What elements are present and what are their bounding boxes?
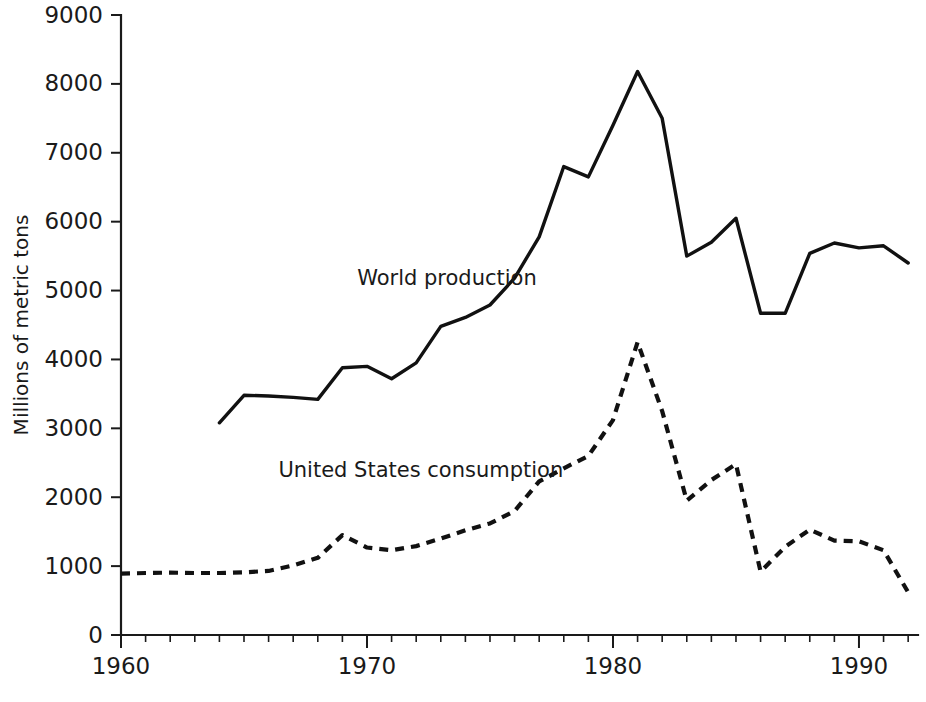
- y-axis-tick-label: 5000: [44, 277, 103, 303]
- y-axis-tick-label: 2000: [44, 484, 103, 510]
- y-axis-tick-label: 9000: [44, 2, 103, 28]
- x-axis-tick-label: 1990: [830, 653, 889, 679]
- y-axis-tick-label: 6000: [44, 208, 103, 234]
- chart-figure: 0100020003000400050006000700080009000 19…: [0, 0, 926, 702]
- y-axis-title: Millions of metric tons: [9, 215, 33, 436]
- line-chart: 0100020003000400050006000700080009000 19…: [0, 0, 926, 702]
- y-axis: 0100020003000400050006000700080009000: [44, 2, 121, 648]
- y-axis-tick-label: 4000: [44, 346, 103, 372]
- y-axis-tick-label: 1000: [44, 553, 103, 579]
- series-label: United States consumption: [278, 458, 563, 482]
- y-axis-tick-label: 3000: [44, 415, 103, 441]
- y-axis-title-text: Millions of metric tons: [9, 215, 33, 436]
- y-axis-tick-label: 8000: [44, 70, 103, 96]
- x-axis-tick-label: 1980: [584, 653, 643, 679]
- series-line-solid: [219, 71, 908, 422]
- x-axis: 1960197019801990: [92, 635, 918, 679]
- y-axis-tick-label: 0: [88, 622, 103, 648]
- x-axis-tick-label: 1960: [92, 653, 151, 679]
- x-axis-tick-label: 1970: [338, 653, 397, 679]
- series-label: World production: [357, 266, 537, 290]
- series-lines: [121, 71, 908, 592]
- y-axis-tick-label: 7000: [44, 139, 103, 165]
- series-annotations: World productionUnited States consumptio…: [278, 266, 563, 482]
